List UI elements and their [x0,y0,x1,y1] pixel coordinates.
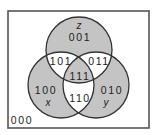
region-z-only: 001 [69,31,91,43]
set-z-label: z [76,20,82,31]
region-x-only: 100 [35,84,57,96]
region-yz: 011 [88,55,110,67]
set-x-label: x [45,97,52,108]
set-y-label: y [103,97,110,108]
region-xz: 101 [50,55,72,67]
venn-diagram: z x y 001 101 011 111 100 110 010 000 [0,0,154,135]
region-xy: 110 [69,92,91,104]
region-xyz: 111 [70,70,91,82]
region-y-only: 010 [101,84,123,96]
region-outside: 000 [11,114,33,126]
